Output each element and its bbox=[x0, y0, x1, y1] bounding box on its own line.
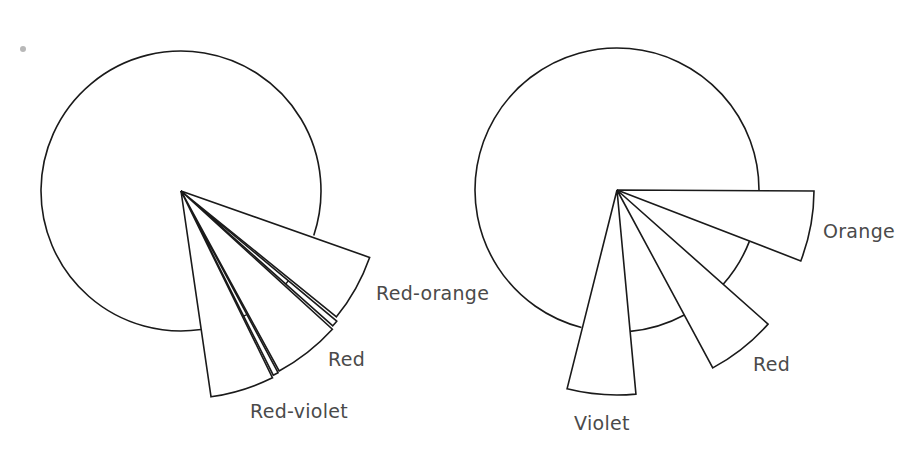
label-violet: Violet bbox=[574, 414, 630, 433]
circle-gap-arc bbox=[723, 241, 749, 284]
wedge-violet bbox=[567, 190, 636, 395]
label-red-violet: Red-violet bbox=[250, 402, 348, 421]
diagram-canvas bbox=[0, 0, 919, 462]
label-orange: Orange bbox=[823, 222, 895, 241]
right-pie-diagram bbox=[475, 48, 814, 395]
label-red-left: Red bbox=[328, 350, 365, 369]
left-pie-diagram bbox=[41, 51, 370, 397]
circle-gap-arc bbox=[630, 315, 684, 331]
label-red-orange: Red-orange bbox=[376, 284, 489, 303]
label-red-right: Red bbox=[753, 355, 790, 374]
stray-mark bbox=[20, 46, 26, 52]
